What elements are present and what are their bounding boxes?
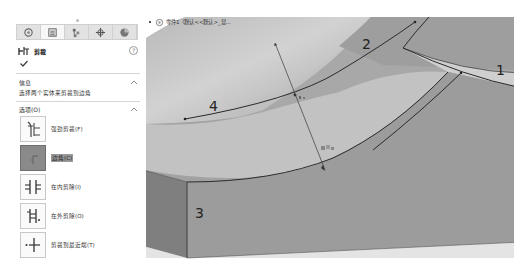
message-text: 选择两个实体来剪裁到边角 (19, 89, 91, 97)
breadcrumb-text[interactable]: 零件1（默认<<默认>_显... (166, 18, 231, 26)
tab-display-manager[interactable] (113, 25, 137, 39)
collapse-chevron-icon[interactable] (130, 106, 138, 112)
configuration-icon (71, 27, 82, 38)
message-section-header[interactable]: 信息 (19, 78, 31, 87)
trim-away-outside-label[interactable]: 在外剪除(O) (51, 212, 84, 220)
left-side-face (143, 170, 187, 258)
corner-label[interactable]: 边角(C) (51, 154, 73, 162)
tab-feature-manager[interactable] (17, 25, 41, 39)
option-corner[interactable]: 边角(C) (20, 145, 138, 171)
option-power-trim[interactable]: 强劲剪裁(F) (20, 116, 138, 142)
label-edge-3: 3 (195, 205, 204, 221)
model-view[interactable] (143, 0, 522, 273)
option-trim-to-closest[interactable]: 剪裁到最近端(T) (20, 232, 138, 258)
graphics-area[interactable]: 1 2 3 4 (143, 0, 522, 273)
breadcrumb[interactable]: 零件1（默认<<默认>_显... (149, 17, 231, 27)
feature-tree-icon (23, 27, 34, 38)
part-icon (155, 18, 164, 27)
corner-trim-icon (23, 148, 43, 168)
ok-checkmark-button[interactable] (19, 58, 29, 68)
trim-away-inside-label[interactable]: 在内剪除(I) (51, 183, 81, 191)
divider (16, 73, 140, 74)
trim-away-outside-icon (23, 206, 43, 226)
corner-button[interactable] (20, 145, 46, 171)
option-trim-away-outside[interactable]: 在外剪除(O) (20, 203, 138, 229)
help-button[interactable]: ? (129, 46, 138, 55)
tab-configuration-manager[interactable] (65, 25, 89, 39)
trim-entities-icon (18, 46, 30, 56)
breadcrumb-expand-dot[interactable] (149, 21, 151, 23)
option-trim-away-inside[interactable]: 在内剪除(I) (20, 174, 138, 200)
trim-to-closest-icon (23, 235, 43, 255)
trim-away-inside-icon (23, 177, 43, 197)
trim-away-inside-button[interactable] (20, 174, 46, 200)
dimxpert-icon (95, 27, 106, 38)
property-manager-panel: 剪裁 ? 信息 选择两个实体来剪裁到边角 选项(O) 强劲剪裁(F) (0, 0, 146, 273)
tab-dimxpert-manager[interactable] (89, 25, 113, 39)
property-manager-icon (47, 27, 58, 38)
trim-away-outside-button[interactable] (20, 203, 46, 229)
feature-title: 剪裁 (34, 47, 46, 56)
power-trim-label[interactable]: 强劲剪裁(F) (51, 125, 83, 133)
tab-property-manager[interactable] (41, 25, 65, 39)
options-section-header[interactable]: 选项(O) (19, 105, 40, 114)
appearance-icon (119, 27, 130, 38)
power-trim-button[interactable] (20, 116, 46, 142)
panel-grip[interactable] (76, 19, 79, 22)
collapse-chevron-icon[interactable] (130, 79, 138, 85)
trim-to-closest-button[interactable] (20, 232, 46, 258)
power-trim-icon (23, 119, 43, 139)
trim-to-closest-label[interactable]: 剪裁到最近端(T) (51, 241, 95, 249)
solidworks-window: 1 2 3 4 零件1（默认<<默认>_显... (0, 0, 522, 273)
manager-tabs (16, 24, 138, 40)
divider (16, 101, 140, 102)
label-curve-1: 1 (496, 62, 505, 78)
feature-title-row: 剪裁 ? (18, 45, 138, 57)
label-curve-2: 2 (362, 36, 371, 52)
label-curve-4: 4 (209, 98, 218, 114)
